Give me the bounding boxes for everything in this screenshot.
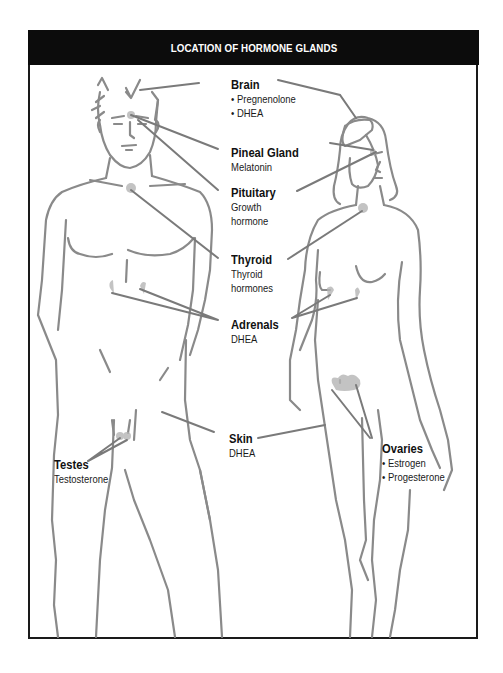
pineal-hormone: Melatonin [231,161,299,175]
label-brain: Brain Pregnenolone DHEA [231,77,306,121]
male-shoulders [38,178,106,637]
brain-leader-male [140,83,199,90]
label-testes: Testes Testosterone [54,457,117,487]
pituitary-hormone-line1: Growth [231,201,276,215]
male-nose [130,122,134,138]
skin-title: Skin [229,431,255,447]
brain-item: Pregnenolone [231,93,296,107]
male-hair [92,78,158,120]
ovaries-item: Progesterone [382,471,445,485]
female-hand-on-head [343,120,373,146]
pineal-title: Pineal Gland [231,145,299,161]
label-skin: Skin DHEA [229,431,260,461]
label-adrenals: Adrenals DHEA [231,317,287,347]
label-thyroid: Thyroid Thyroid hormones [231,252,280,296]
testes-hormone: Testosterone [54,473,108,487]
male-pecs [68,238,194,257]
brain-item: DHEA [231,107,296,121]
male-mouth [122,145,136,150]
adrenals-hormone: DHEA [231,333,279,347]
adrenals-leader-male [112,289,218,320]
brain-title: Brain [231,77,296,93]
skin-leader-female [258,425,325,438]
thyroid-title: Thyroid [231,252,273,268]
adrenals-title: Adrenals [231,317,279,333]
thyroid-leader-female [288,211,362,259]
male-legs [96,410,175,637]
ovaries-leader [332,385,372,438]
pineal-leader-male [131,115,218,149]
ovaries-title: Ovaries [382,441,445,457]
label-pituitary: Pituitary Growth hormone [231,185,283,229]
label-pineal-gland: Pineal Gland Melatonin [231,145,310,175]
ovaries-item: Estrogen [382,457,445,471]
thyroid-hormone-line2: hormones [231,282,273,296]
skin-hormone: DHEA [229,447,255,461]
female-neck [356,186,384,205]
testes-title: Testes [54,457,108,473]
male-right-arm [180,238,195,360]
pituitary-title: Pituitary [231,185,276,201]
thyroid-hormone-line1: Thyroid [231,268,273,282]
pituitary-hormone-line2: hormone [231,215,276,229]
adrenals-leader-female [292,295,357,318]
female-figure [290,117,452,637]
female-breast [319,266,385,290]
label-ovaries: Ovaries Estrogen Progesterone [382,441,455,485]
male-testes-highlight-2 [123,432,131,440]
male-left-arm [58,220,66,330]
male-adrenal-highlight [109,280,146,294]
male-figure [38,78,222,637]
